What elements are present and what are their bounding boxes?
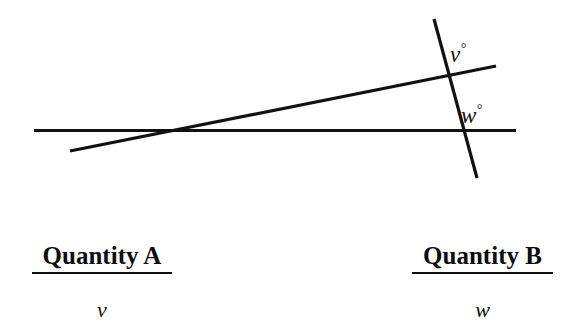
transversal-line — [70, 66, 496, 151]
angle-label-v-variable: v — [450, 42, 461, 67]
figure-page: v° w° Quantity A Quantity B v w — [0, 0, 569, 326]
quantity-a-value: v — [32, 299, 172, 321]
quantity-b-value: w — [412, 299, 553, 321]
degree-symbol-icon: ° — [461, 41, 467, 56]
quantity-b-heading: Quantity B — [412, 243, 553, 274]
quantity-a-heading: Quantity A — [32, 243, 172, 274]
angle-label-w-variable: w — [461, 103, 477, 128]
angle-label-v: v° — [450, 42, 467, 66]
degree-symbol-icon: ° — [477, 102, 483, 117]
angle-label-w: w° — [461, 103, 483, 127]
geometry-figure — [0, 0, 569, 326]
